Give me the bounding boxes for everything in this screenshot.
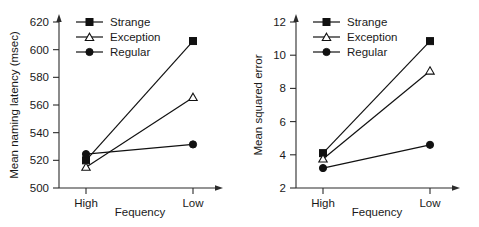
y-axis-arrow-icon — [293, 14, 298, 22]
data-point-regular-low — [426, 141, 433, 148]
y-tick-label: 2 — [280, 182, 286, 194]
two-panel-line-chart-figure: 620 600 580 560 540 520 500 High Low Feq… — [0, 0, 479, 227]
y-axis-tick-labels: 620 600 580 560 540 520 500 — [30, 16, 49, 194]
series-line-exception — [323, 71, 430, 159]
data-point-exception-low — [189, 93, 197, 100]
legend-marker-strange-icon — [86, 19, 93, 26]
x-category-label-high: High — [311, 197, 335, 209]
y-tick-label: 8 — [280, 82, 286, 94]
chart-panel-naming-latency: 620 600 580 560 540 520 500 High Low Feq… — [0, 0, 240, 227]
data-point-strange-low — [427, 38, 434, 45]
legend-label-strange: Strange — [347, 16, 387, 28]
legend-label-exception: Exception — [347, 31, 398, 43]
y-tick-label: 620 — [30, 16, 49, 28]
y-tick-label: 540 — [30, 127, 49, 139]
y-axis-tick-labels: 12 10 8 6 4 2 — [273, 16, 286, 194]
x-axis-ticks — [323, 188, 430, 194]
y-tick-label: 10 — [273, 49, 286, 61]
data-point-regular-high — [319, 164, 326, 171]
y-axis-title: Mean naming latency (msec) — [8, 31, 20, 179]
legend-label-exception: Exception — [110, 31, 161, 43]
legend-label-regular: Regular — [347, 46, 387, 58]
legend-label-regular: Regular — [110, 46, 150, 58]
legend-marker-regular-icon — [86, 48, 93, 55]
y-tick-label: 6 — [280, 116, 286, 128]
chart-panel-mean-squared-error: 12 10 8 6 4 2 High Low Fequency Mean squ… — [240, 0, 479, 227]
y-tick-label: 4 — [280, 149, 287, 161]
data-point-regular-low — [189, 141, 196, 148]
y-tick-label: 600 — [30, 44, 49, 56]
y-axis-ticks — [290, 22, 296, 188]
x-category-label-low: Low — [182, 197, 204, 209]
x-axis-arrow-icon — [452, 185, 460, 190]
series-line-regular — [323, 145, 430, 168]
y-tick-label: 560 — [30, 99, 49, 111]
data-point-strange-low — [190, 38, 197, 45]
x-category-label-low: Low — [419, 197, 441, 209]
y-tick-label: 580 — [30, 71, 49, 83]
legend-label-strange: Strange — [110, 16, 150, 28]
x-axis-title: Fequency — [115, 206, 166, 218]
x-category-label-high: High — [74, 197, 98, 209]
y-tick-label: 500 — [30, 182, 49, 194]
y-tick-label: 12 — [273, 16, 286, 28]
legend: Strange Exception Regular — [76, 16, 161, 58]
x-axis-title: Fequency — [352, 206, 403, 218]
series-line-strange — [86, 41, 193, 160]
y-tick-label: 520 — [30, 154, 49, 166]
legend: Strange Exception Regular — [313, 16, 398, 58]
y-axis-ticks — [53, 22, 59, 188]
data-point-regular-high — [82, 151, 89, 158]
x-axis-arrow-icon — [215, 185, 223, 190]
legend-marker-regular-icon — [323, 48, 330, 55]
y-axis-arrow-icon — [56, 14, 61, 22]
series-line-regular — [86, 144, 193, 154]
data-point-exception-low — [426, 67, 434, 74]
x-axis-ticks — [86, 188, 193, 194]
series-line-exception — [86, 97, 193, 167]
y-axis-title: Mean squared error — [252, 54, 264, 155]
legend-marker-strange-icon — [323, 19, 330, 26]
